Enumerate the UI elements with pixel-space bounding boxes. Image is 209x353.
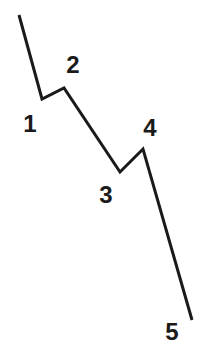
- wave-label-5: 5: [165, 318, 178, 345]
- wave-label-3: 3: [99, 181, 112, 208]
- wave-label-4: 4: [143, 114, 157, 141]
- wave-path-line: [19, 15, 192, 320]
- wave-label-1: 1: [23, 110, 36, 137]
- wave-label-2: 2: [66, 51, 79, 78]
- wave-diagram: 1 2 3 4 5: [0, 0, 209, 353]
